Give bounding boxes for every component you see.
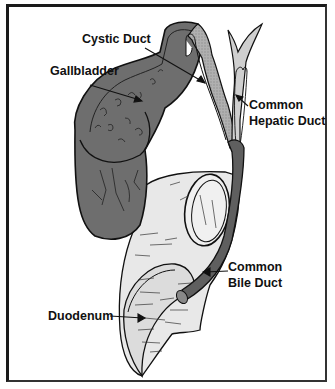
label-common-bile-duct-line2: Bile Duct <box>228 276 282 291</box>
common-hepatic-duct <box>228 24 262 150</box>
cystic-duct <box>186 24 236 148</box>
label-gallbladder: Gallbladder <box>50 64 119 79</box>
label-common-bile-duct-line1: Common <box>228 260 282 275</box>
label-common-hepatic-duct-line1: Common <box>249 98 303 113</box>
label-cystic-duct: Cystic Duct <box>82 32 151 47</box>
label-duodenum: Duodenum <box>48 309 113 324</box>
gallbladder-anatomy-illustration <box>0 0 335 389</box>
label-common-hepatic-duct-line2: Hepatic Duct <box>249 114 325 129</box>
